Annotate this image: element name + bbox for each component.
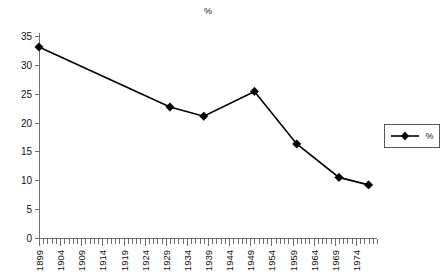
y-tick-label: 5 bbox=[26, 204, 32, 215]
data-series-percent bbox=[35, 43, 373, 189]
y-tick-label: 35 bbox=[21, 31, 33, 42]
x-tick-label: 1914 bbox=[97, 250, 108, 271]
x-tick-label: 1954 bbox=[266, 250, 277, 271]
x-tick-label: 1939 bbox=[203, 250, 214, 271]
y-tick-label: 0 bbox=[26, 233, 32, 244]
data-point-marker bbox=[35, 43, 43, 51]
x-tick-label: 1904 bbox=[55, 250, 66, 271]
x-tick-label: 1909 bbox=[76, 250, 87, 271]
data-point-marker bbox=[166, 103, 174, 111]
chart-legend[interactable]: % bbox=[384, 124, 440, 148]
y-tick-label: 20 bbox=[21, 118, 33, 129]
x-tick-label: 1919 bbox=[119, 250, 130, 271]
line-chart: % 05101520253035 18991904190919141919192… bbox=[0, 0, 445, 280]
x-tick-label: 1924 bbox=[140, 250, 151, 271]
y-tick-label: 15 bbox=[21, 146, 33, 157]
x-tick-label: 1899 bbox=[34, 250, 45, 271]
x-tick-label: 1929 bbox=[161, 250, 172, 271]
data-point-marker bbox=[200, 112, 208, 120]
x-tick-label: 1959 bbox=[288, 250, 299, 271]
x-tick-label: 1949 bbox=[245, 250, 256, 271]
legend-label: % bbox=[425, 132, 433, 141]
y-tick-label: 25 bbox=[21, 89, 33, 100]
y-tick-label: 10 bbox=[21, 175, 33, 186]
y-tick-label: 30 bbox=[21, 60, 33, 71]
plot-area: 05101520253035 1899190419091914191919241… bbox=[0, 0, 445, 280]
y-axis: 05101520253035 bbox=[21, 31, 40, 244]
data-point-marker bbox=[364, 181, 372, 189]
x-tick-label: 1964 bbox=[309, 250, 320, 271]
x-tick-label: 1974 bbox=[351, 250, 362, 271]
x-tick-label: 1969 bbox=[330, 250, 341, 271]
x-tick-label: 1944 bbox=[224, 250, 235, 271]
x-axis: 1899190419091914191919241929193419391944… bbox=[34, 239, 378, 272]
legend-marker-icon bbox=[390, 130, 420, 142]
x-tick-label: 1934 bbox=[182, 250, 193, 271]
